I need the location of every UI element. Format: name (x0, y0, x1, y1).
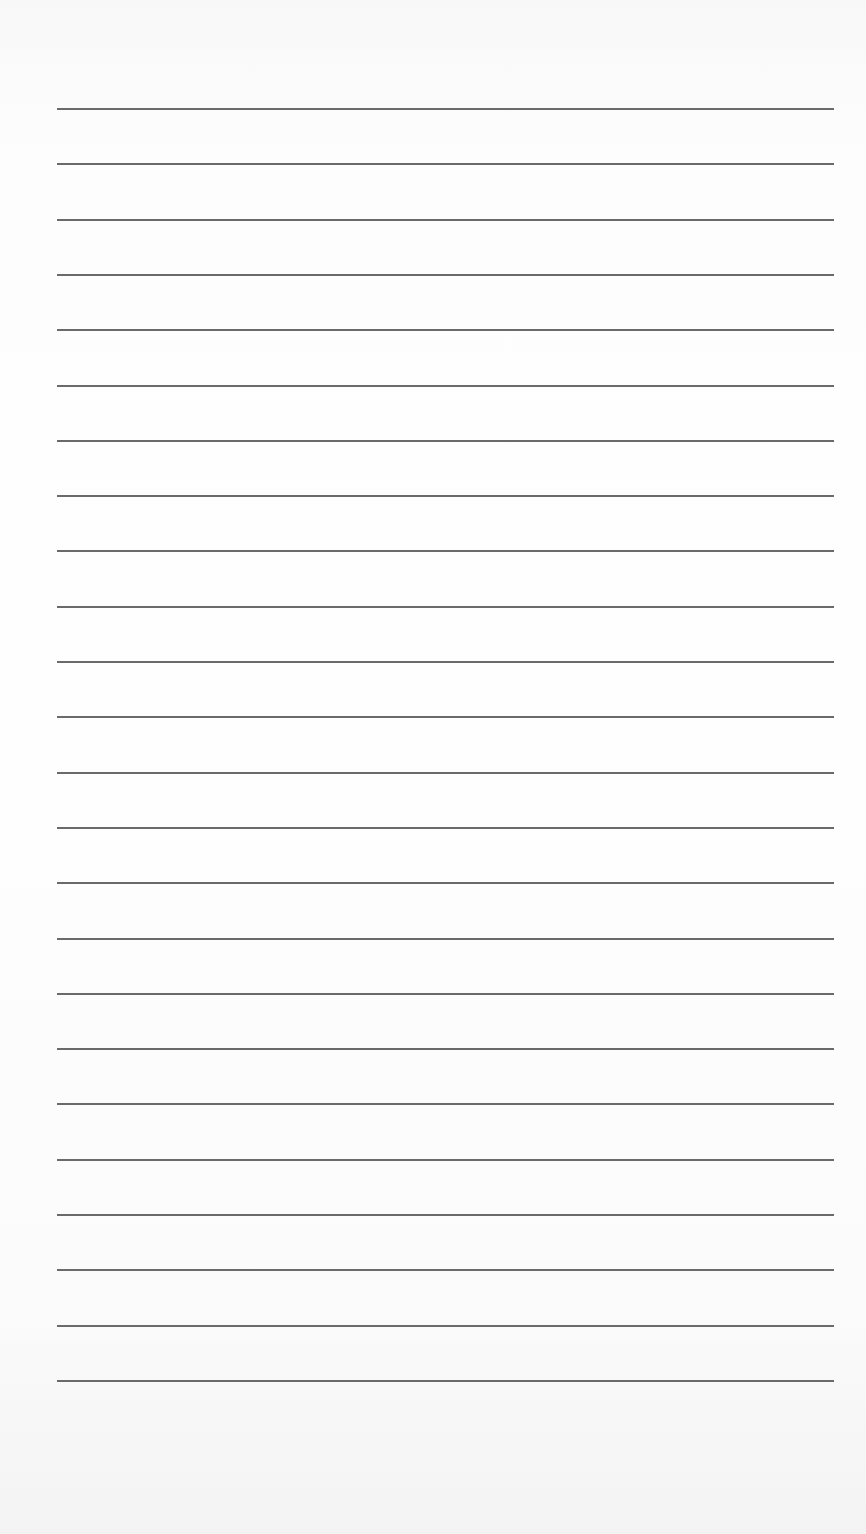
lined-paper-sheet (0, 0, 866, 1534)
ruled-line (57, 219, 834, 221)
ruled-line (57, 1269, 834, 1271)
ruled-line (57, 163, 834, 165)
ruled-line (57, 772, 834, 774)
ruled-line (57, 993, 834, 995)
ruled-line (57, 1325, 834, 1327)
ruled-line (57, 606, 834, 608)
ruled-line (57, 274, 834, 276)
ruled-line (57, 1048, 834, 1050)
ruled-line (57, 827, 834, 829)
ruled-line (57, 495, 834, 497)
ruled-line (57, 385, 834, 387)
ruled-line (57, 440, 834, 442)
ruled-line (57, 550, 834, 552)
ruled-line (57, 329, 834, 331)
ruled-line (57, 1159, 834, 1161)
ruled-line (57, 1380, 834, 1382)
ruled-line (57, 938, 834, 940)
ruled-line (57, 1103, 834, 1105)
ruled-line (57, 716, 834, 718)
ruled-line (57, 661, 834, 663)
ruled-line (57, 108, 834, 110)
ruled-line (57, 882, 834, 884)
ruled-line (57, 1214, 834, 1216)
